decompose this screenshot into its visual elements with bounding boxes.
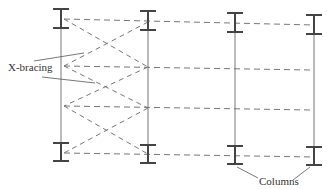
dashed-beam-lines bbox=[64, 19, 314, 157]
x-bracing-label: X-bracing bbox=[8, 61, 53, 73]
i-beam-icon bbox=[140, 11, 156, 30]
i-beam-icon bbox=[140, 145, 156, 163]
columns-label: Columns bbox=[259, 175, 299, 187]
x-bracing-lines bbox=[64, 19, 148, 154]
i-beam-icon bbox=[306, 147, 322, 165]
bottom-columns bbox=[53, 143, 322, 165]
i-beam-icon bbox=[53, 9, 69, 28]
bracing-diagram: X-bracing Columns bbox=[0, 0, 327, 189]
i-beam-icon bbox=[227, 146, 243, 164]
